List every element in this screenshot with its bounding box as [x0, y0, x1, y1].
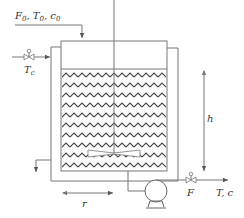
coolant-temperature-label: Tc [24, 64, 35, 77]
outlet-flow-label: F [186, 187, 195, 198]
coolant-outlet-line [36, 160, 51, 172]
outlet-product-label: T, c [216, 187, 234, 198]
cstr-diagram: F0, T0, c0 Tc h r [0, 0, 244, 218]
outlet-valve-icon[interactable] [186, 172, 196, 183]
pump-icon[interactable] [145, 180, 167, 208]
height-label: h [207, 113, 213, 124]
coolant-valve-icon[interactable] [24, 49, 34, 60]
feed-label: F0, T0, c0 [14, 10, 61, 23]
feed-inlet-line [15, 25, 82, 38]
radius-label: r [82, 198, 88, 209]
